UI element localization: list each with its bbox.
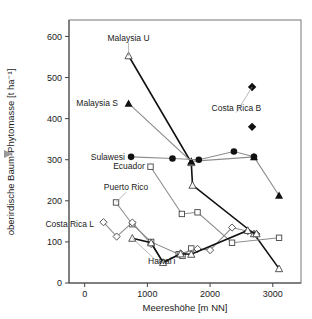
y-tick-label: 600 (47, 32, 62, 42)
series-label: Costa Rica L (45, 219, 94, 229)
series-malaysia-s (125, 99, 283, 198)
label-leader (116, 192, 126, 202)
x-axis-title: Meereshöhe [m NN] (142, 302, 227, 313)
x-tick-label: 1000 (137, 289, 157, 299)
series-label: Malaysia S (76, 98, 118, 108)
series-malaysia-u (125, 52, 283, 272)
circle-filled-marker (231, 148, 238, 155)
triangle-right-icon (3, 148, 15, 160)
series-label: Malaysia U (108, 33, 150, 43)
circle-filled-marker (169, 155, 176, 162)
x-tick-label: 0 (82, 289, 87, 299)
triangle-filled-marker (275, 191, 283, 198)
circle-filled-marker (195, 156, 202, 163)
y-axis: 0100200300400500600 (47, 20, 69, 288)
y-tick-label: 200 (47, 196, 62, 206)
chart-figure: 0100200300400500600 0100020003000 Malays… (0, 0, 312, 319)
series-label: Puerto Rico (104, 182, 149, 192)
x-tick-label: 2000 (200, 289, 220, 299)
square-open-marker (276, 235, 281, 240)
triangle-filled-marker (125, 99, 133, 106)
y-tick-label: 500 (47, 73, 62, 83)
phytomass-elevation-chart: 0100200300400500600 0100020003000 Malays… (0, 0, 312, 319)
y-tick-label: 0 (57, 278, 62, 288)
series-line (129, 103, 279, 195)
series-label: Hawaiʻi (148, 256, 176, 266)
x-tick-label: 3000 (263, 289, 283, 299)
series-label: Ecuador (113, 161, 145, 171)
triangle-open-marker (189, 182, 196, 189)
y-tick-label: 100 (47, 237, 62, 247)
square-open-marker (148, 164, 153, 169)
square-open-marker (179, 211, 184, 216)
series-label: Costa Rica B (212, 103, 262, 113)
square-open-marker (229, 240, 234, 245)
y-tick-label: 300 (47, 155, 62, 165)
diamond-filled-marker (248, 123, 256, 131)
series-line (151, 167, 280, 243)
square-open-marker (195, 210, 200, 215)
series-ecuador (148, 164, 282, 245)
circle-filled-marker (251, 154, 258, 161)
y-tick-label: 400 (47, 114, 62, 124)
x-axis: 0100020003000 (69, 283, 301, 299)
circle-filled-marker (128, 154, 135, 161)
